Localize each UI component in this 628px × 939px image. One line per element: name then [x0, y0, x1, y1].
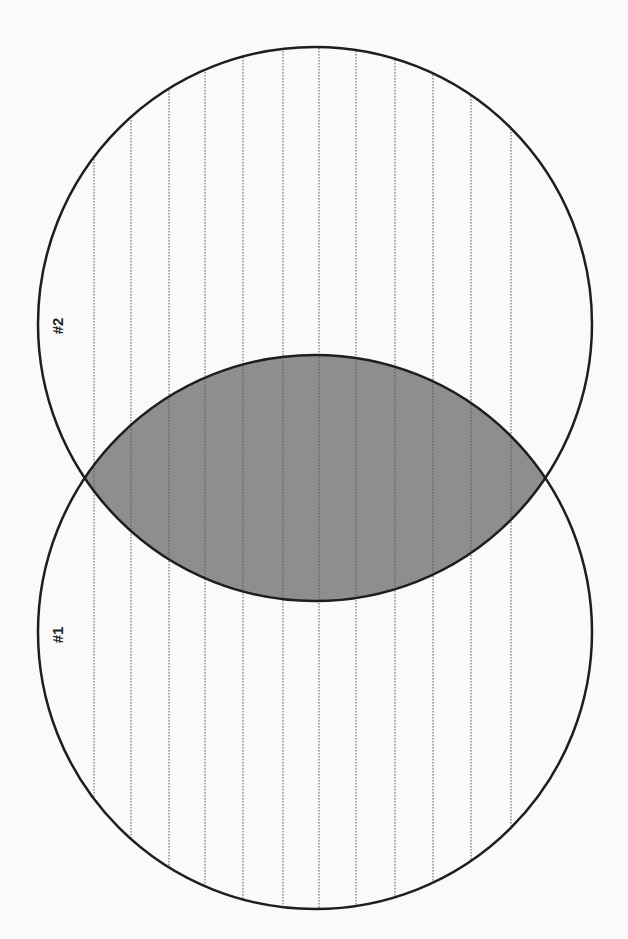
intersection-region — [85, 355, 545, 601]
venn-diagram: #1 #2 — [0, 0, 628, 939]
set-2-label: #2 — [49, 318, 66, 335]
set-1-label: #1 — [49, 627, 66, 644]
